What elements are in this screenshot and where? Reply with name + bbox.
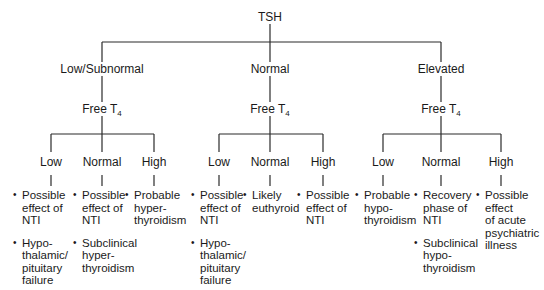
leaf-label-low: Low [38,155,64,169]
branch-label-low-subnormal: Low/Subnormal [58,62,145,76]
findings-list: Possibleeffect ofNTI Hypo-thalamic/pitui… [191,189,246,290]
finding-item: Possibleeffectof acutepsychiatricillness [476,189,539,252]
free-t4-label-1: Free T4 [80,102,124,116]
findings-list: Possibleeffect ofNTI Hypo-thalamic/pitui… [13,189,68,290]
leaf-label-high: High [487,155,516,169]
branch-label-elevated: Elevated [416,62,467,76]
leaf-label-high: High [140,155,169,169]
leaf-label-normal: Normal [81,155,124,169]
free-t4-label-2: Free T4 [248,102,292,116]
leaf-label-low: Low [206,155,232,169]
leaf-label-high: High [309,155,338,169]
finding-item: Possibleeffect ofNTI [297,189,349,227]
findings-list: Probablehyper-thyroidism [125,189,186,237]
finding-item: Probablehyper-thyroidism [125,189,186,227]
findings-list: Possibleeffect ofNTI [297,189,349,237]
free-t4-label-3: Free T4 [419,102,463,116]
findings-list: Probablehypo-thyroidism [355,189,416,237]
finding-item: Recoveryphase ofNTI [414,189,478,227]
finding-item: Possibleeffect ofNTI [13,189,68,227]
finding-item: Hypo-thalamic/pituitaryfailure [191,237,246,287]
finding-item: Hypo-thalamic/pituitaryfailure [13,237,68,287]
finding-item: Subclinicalhypo-thyroidism [414,237,478,275]
finding-item: Probablehypo-thyroidism [355,189,416,227]
finding-item: Possibleeffect ofNTI [191,189,246,227]
leaf-label-normal: Normal [249,155,292,169]
finding-item: Subclinicalhyper-thyroidism [73,237,137,275]
finding-item: Likelyeuthyroid [243,189,299,214]
leaf-label-low: Low [370,155,396,169]
root-label-tsh: TSH [256,10,284,24]
findings-list: Possibleeffectof acutepsychiatricillness [476,189,539,262]
findings-list: Likelyeuthyroid [243,189,299,224]
branch-label-normal: Normal [249,62,292,76]
findings-list: Recoveryphase ofNTI Subclinicalhypo-thyr… [414,189,478,284]
leaf-label-normal: Normal [420,155,463,169]
